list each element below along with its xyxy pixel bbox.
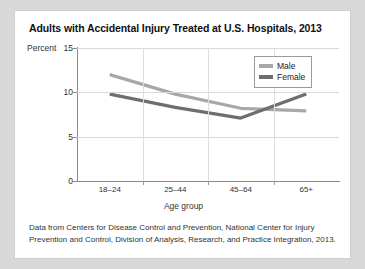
gridline-x [143, 48, 144, 181]
chart-legend: MaleFemale [254, 56, 312, 88]
legend-item-male: Male [259, 61, 305, 71]
y-tick-label: 0 [51, 176, 73, 186]
gridline-x [208, 48, 209, 181]
x-axis-label: Age group [15, 201, 352, 211]
x-tick-label: 45–64 [211, 185, 271, 194]
chart-card: Adults with Accidental Injury Treated at… [14, 10, 351, 259]
source-footnote: Data from Centers for Disease Control an… [29, 222, 341, 245]
x-tick-mark [208, 181, 209, 185]
y-tick-label: 5 [51, 132, 73, 142]
x-tick-mark [143, 181, 144, 185]
y-tick-label: 15 [51, 43, 73, 53]
y-tick-label: 10 [51, 87, 73, 97]
legend-swatch-female [259, 75, 273, 79]
x-tick-label: 18–24 [80, 185, 140, 194]
legend-label: Male [277, 61, 295, 71]
x-tick-label: 25–44 [145, 185, 205, 194]
x-tick-label: 65+ [276, 185, 336, 194]
x-tick-mark [274, 181, 275, 185]
legend-item-female: Female [259, 72, 305, 82]
legend-label: Female [277, 72, 305, 82]
legend-swatch-male [259, 64, 273, 68]
